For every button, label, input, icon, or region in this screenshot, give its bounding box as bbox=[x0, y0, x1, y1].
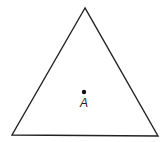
point-a-label: A bbox=[79, 96, 88, 110]
triangle bbox=[12, 8, 158, 136]
triangle-diagram: A bbox=[0, 0, 167, 142]
point-a-dot bbox=[82, 90, 86, 94]
